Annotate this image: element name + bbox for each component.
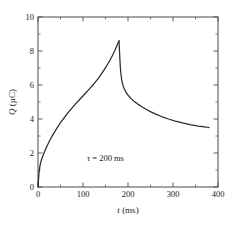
series-discharge: [119, 41, 209, 128]
y-tick-label: 8: [30, 46, 34, 56]
y-tick-label: 6: [30, 80, 34, 90]
x-tick-labels: 0100200300400: [36, 189, 225, 199]
axis-ticks: [38, 17, 218, 187]
y-axis-title: Q (µC): [7, 89, 17, 115]
data-series-layer: [38, 41, 209, 187]
x-tick-label: 100: [77, 189, 90, 199]
chart-figure: 0100200300400 0246810 t (ms) Q (µC) τ = …: [0, 0, 246, 225]
series-charge: [38, 41, 119, 187]
x-tick-label: 300: [167, 189, 180, 199]
tau-annotation: τ = 200 ms: [87, 153, 124, 163]
x-tick-label: 0: [36, 189, 40, 199]
plot-frame: [38, 17, 218, 187]
y-tick-label: 4: [30, 114, 35, 124]
charge-decay-chart: 0100200300400 0246810 t (ms) Q (µC) τ = …: [0, 0, 246, 225]
y-tick-label: 2: [30, 148, 34, 158]
x-tick-label: 200: [122, 189, 135, 199]
y-tick-label: 10: [26, 12, 35, 22]
x-tick-label: 400: [212, 189, 225, 199]
x-axis-title: t (ms): [117, 205, 138, 215]
y-tick-labels: 0246810: [26, 12, 35, 192]
y-tick-label: 0: [30, 182, 34, 192]
